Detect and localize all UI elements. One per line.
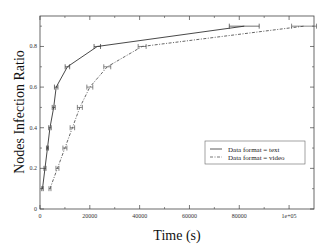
- data-series: [42, 24, 317, 192]
- y-axis-title: Nodes Infection Ratio: [12, 50, 27, 174]
- y-tick-label: 0.2: [30, 165, 38, 171]
- x-axis-ticks: 0200004000060000800001e+05: [39, 16, 297, 219]
- y-axis-ticks: 00.20.40.60.8: [30, 26, 315, 212]
- series-line: [50, 26, 304, 189]
- legend-label-video: Data format = video: [228, 154, 285, 162]
- plot-frame: [40, 16, 314, 209]
- series-line: [42, 26, 244, 189]
- x-axis-title: Time (s): [153, 228, 201, 244]
- legend: Data format = text Data format = video: [205, 141, 305, 164]
- y-tick-label: 0: [34, 206, 37, 212]
- y-tick-label: 0.8: [30, 43, 38, 49]
- legend-label-text: Data format = text: [228, 146, 280, 154]
- x-tick-label: 20000: [82, 213, 97, 219]
- y-tick-label: 0.6: [30, 84, 38, 90]
- line-chart: 0200004000060000800001e+05 00.20.40.60.8…: [0, 0, 329, 249]
- x-tick-label: 60000: [182, 213, 197, 219]
- x-tick-label: 1e+05: [282, 213, 297, 219]
- x-tick-label: 0: [39, 213, 42, 219]
- y-tick-label: 0.4: [30, 125, 38, 131]
- x-tick-label: 80000: [232, 213, 247, 219]
- x-tick-label: 40000: [132, 213, 147, 219]
